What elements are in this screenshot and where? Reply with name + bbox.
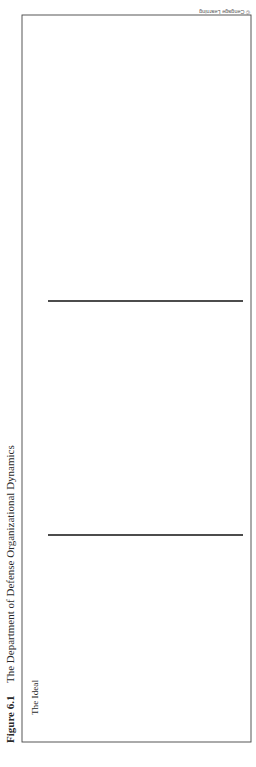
figure-title: The Department of Defense Organizational… [4,445,16,683]
figure-canvas: © Cengage Learning Figure 6.1 The Depart… [0,0,256,767]
figure-frame [22,15,251,742]
panel-title: The Ideal [30,680,40,715]
panel-ideal: The Ideal [30,680,40,715]
figure-number: Figure 6.1 [4,696,16,743]
credit-text: © Cengage Learning [199,9,250,15]
figure-caption: Figure 6.1 The Department of Defense Org… [4,445,16,743]
